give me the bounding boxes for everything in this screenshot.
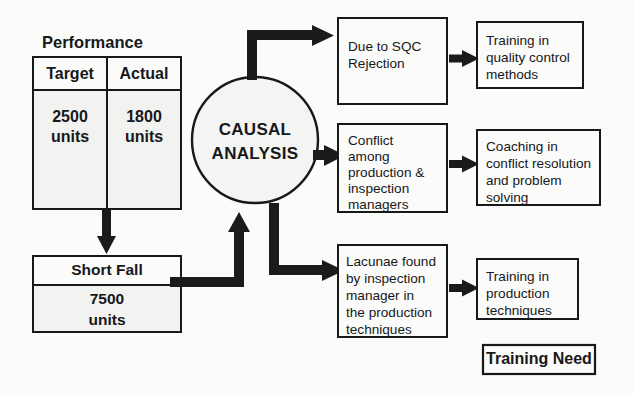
- shortfall-label: Short Fall: [71, 261, 142, 278]
- training-coaching-line-2: conflict resolution: [486, 156, 591, 171]
- diagram-page: Performance Target Actual 2500 units 180…: [0, 0, 635, 395]
- training-production-line-3: techniques: [486, 303, 552, 318]
- performance-col-header-target: Target: [46, 65, 94, 82]
- training-production-line-2: production: [486, 286, 549, 301]
- cause-conflict-line-2: among: [348, 149, 390, 164]
- cause-lacunae-line-4: the production: [346, 305, 432, 320]
- arrow-hub-to-cause-lacunae: [269, 203, 344, 281]
- arrow-cause-conflict-to-training-coaching: [449, 156, 479, 173]
- performance-actual-unit: units: [125, 128, 163, 145]
- cause-sqc-line-2: Rejection: [348, 56, 405, 71]
- cause-lacunae-line-5: techniques: [346, 322, 412, 337]
- arrow-hub-to-cause-sqc: [247, 25, 334, 80]
- shortfall-unit: units: [88, 311, 125, 328]
- cause-conflict-line-3: production &: [348, 165, 424, 180]
- causal-analysis-line1: CAUSAL: [219, 120, 292, 139]
- cause-conflict-line-5: managers: [348, 197, 409, 212]
- training-coaching-line-1: Coaching in: [486, 139, 558, 154]
- performance-actual-amount: 1800: [126, 108, 162, 125]
- arrow-cause-sqc-to-training-quality: [449, 50, 479, 67]
- performance-col-header-actual: Actual: [120, 65, 169, 82]
- performance-title: Performance: [42, 33, 143, 51]
- arrow-cause-lacunae-to-training-production: [449, 280, 479, 297]
- causal-analysis-line2: ANALYSIS: [212, 144, 299, 163]
- training-quality-control-line-3: methods: [486, 67, 538, 82]
- cause-conflict-line-4: inspection: [348, 181, 409, 196]
- cause-lacunae-line-3: manager in: [346, 288, 414, 303]
- shortfall-amount: 7500: [90, 290, 124, 307]
- cause-sqc-line-1: Due to SQC: [348, 39, 421, 54]
- training-quality-control-line-1: Training in: [486, 33, 549, 48]
- training-production-line-1: Training in: [486, 269, 549, 284]
- causal-analysis-circle: [192, 77, 318, 203]
- performance-target-unit: units: [51, 128, 89, 145]
- causal-analysis-diagram: Performance Target Actual 2500 units 180…: [0, 0, 635, 395]
- cause-lacunae-line-1: Lacunae found: [346, 254, 436, 269]
- training-coaching-line-4: solving: [486, 190, 528, 205]
- arrow-performance-to-shortfall: [97, 209, 116, 254]
- training-coaching-line-3: and problem: [486, 173, 562, 188]
- training-quality-control-line-2: quality control: [486, 50, 570, 65]
- performance-target-amount: 2500: [52, 108, 88, 125]
- cause-lacunae-line-2: by inspection: [346, 271, 425, 286]
- cause-conflict-line-1: Conflict: [348, 133, 394, 148]
- legend-training-need-label: Training Need: [486, 350, 592, 367]
